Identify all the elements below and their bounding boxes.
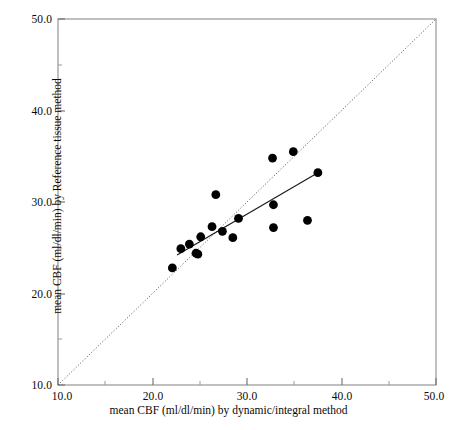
- ytick-label-10: 10.0: [8, 379, 52, 391]
- data-point: [269, 223, 278, 232]
- data-point: [234, 214, 243, 223]
- data-point: [228, 233, 237, 242]
- data-point: [208, 222, 217, 231]
- ytick-label-20: 20.0: [8, 288, 52, 300]
- data-point: [313, 168, 322, 177]
- data-point: [168, 263, 177, 272]
- data-point: [211, 190, 220, 199]
- xtick-label-40: 40.0: [332, 390, 353, 402]
- data-point: [218, 227, 227, 236]
- plot-canvas: [0, 0, 457, 430]
- scatter-plot-figure: 50.0 40.0 30.0 20.0 10.0 10.0 20.0 30.0 …: [0, 0, 457, 430]
- xtick-label-20: 20.0: [143, 390, 164, 402]
- data-point: [268, 154, 277, 163]
- y-axis-title: mean CBF (ml/dl/min) by Reference tissue…: [51, 36, 63, 356]
- data-point: [193, 250, 202, 259]
- data-point: [303, 216, 312, 225]
- data-point: [289, 147, 298, 156]
- data-point: [185, 240, 194, 249]
- ytick-label-50: 50.0: [8, 13, 52, 25]
- data-point: [176, 244, 185, 253]
- xtick-label-50: 50.0: [424, 390, 445, 402]
- xtick-label-30: 30.0: [237, 390, 258, 402]
- data-point: [196, 232, 205, 241]
- data-point: [269, 200, 278, 209]
- x-axis-title: mean CBF (ml/dl/min) by dynamic/integral…: [0, 404, 457, 416]
- ytick-label-40: 40.0: [8, 105, 52, 117]
- xtick-label-10: 10.0: [52, 390, 73, 402]
- ytick-label-30: 30.0: [8, 196, 52, 208]
